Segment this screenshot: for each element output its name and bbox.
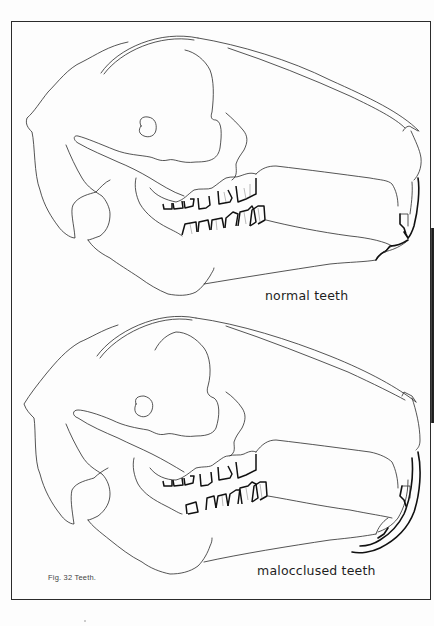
skull-maloccluded xyxy=(24,316,420,574)
scan-speck xyxy=(84,620,86,622)
incisors-maloccluded xyxy=(352,452,420,553)
skull-normal xyxy=(26,36,421,295)
incisors-normal xyxy=(376,178,419,260)
lower-molars-maloccluded xyxy=(186,482,267,514)
figure-caption: Fig. 32 Teeth. xyxy=(48,573,96,582)
book-page: normal teeth malocclused teeth Fig. 32 T… xyxy=(0,0,434,626)
lower-molars-normal xyxy=(182,206,265,235)
panel-label-maloccluded: malocclused teeth xyxy=(257,563,376,578)
figure-illustration xyxy=(0,0,434,626)
panel-label-normal: normal teeth xyxy=(265,288,348,303)
upper-molars-maloccluded xyxy=(163,454,256,486)
